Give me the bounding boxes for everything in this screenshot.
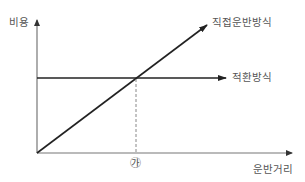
y-axis-label: 비용 — [9, 17, 29, 28]
intersection-marker-label: ㉮ — [130, 158, 141, 169]
direct-haul-method-label: 직접운반방식 — [212, 17, 272, 28]
direct-haul-method-line — [37, 25, 207, 153]
transfer-method-label: 적환방식 — [232, 72, 272, 83]
x-axis-label: 운반거리 — [253, 164, 293, 175]
